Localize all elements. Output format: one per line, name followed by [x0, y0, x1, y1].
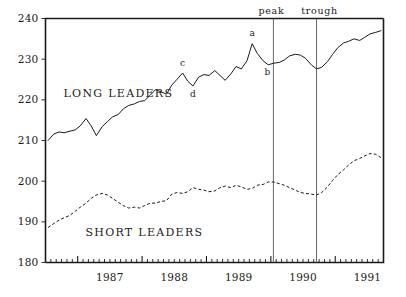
y-tick-label: 240 — [18, 12, 39, 24]
y-tick-label: 210 — [18, 134, 39, 146]
reference-label-trough: trough — [301, 5, 338, 16]
x-tick-label: 1987 — [96, 271, 124, 283]
point-annotation-c: c — [180, 58, 185, 68]
x-axis-tick-labels: 19871988198919901991 — [96, 271, 381, 283]
y-tick-label: 190 — [18, 215, 39, 227]
reference-line-labels: peaktrough — [258, 5, 337, 16]
x-tick-label: 1988 — [160, 271, 188, 283]
y-tick-label: 220 — [18, 93, 39, 105]
y-tick-label: 230 — [18, 53, 39, 65]
series-inline-labels: LONG LEADERSSHORT LEADERS — [64, 87, 204, 239]
y-axis-tick-labels: 180190200210220230240 — [18, 12, 39, 268]
point-annotation-d: d — [190, 89, 196, 99]
chart-container: 180190200210220230240 198719881989199019… — [0, 0, 406, 297]
y-tick-label: 180 — [18, 256, 39, 268]
reference-lines — [273, 19, 316, 263]
data-series — [48, 31, 381, 228]
x-tick-label: 1990 — [289, 271, 317, 283]
series-line-long-leaders — [48, 31, 381, 141]
x-axis-ticks — [51, 256, 378, 263]
point-annotation-b: b — [264, 67, 270, 77]
series-line-short-leaders — [48, 154, 381, 228]
x-tick-label: 1991 — [354, 271, 382, 283]
series-label-short-leaders: SHORT LEADERS — [85, 226, 203, 239]
series-label-long-leaders: LONG LEADERS — [64, 87, 174, 100]
x-tick-label: 1989 — [225, 271, 253, 283]
y-tick-label: 200 — [18, 175, 39, 187]
reference-label-peak: peak — [258, 5, 284, 16]
leading-indexes-chart: 180190200210220230240 198719881989199019… — [0, 0, 406, 297]
point-annotations: abcd — [180, 28, 270, 99]
point-annotation-a: a — [249, 28, 255, 38]
